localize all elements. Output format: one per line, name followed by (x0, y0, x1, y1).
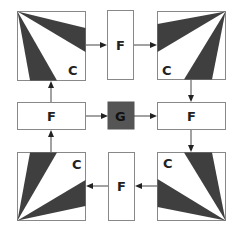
node-c-bottom-right: C (158, 153, 226, 221)
arrow-f-mid-left-to-c-top-left (48, 81, 54, 102)
node-f-mid-left: F (18, 103, 86, 130)
node-c-bottom-left: C (18, 153, 86, 221)
node-label: F (116, 38, 125, 53)
arrow-g-to-f-mid-right (134, 113, 157, 119)
cycle-diagram: C F C F G F C F C (0, 0, 234, 228)
node-label: C (68, 63, 78, 78)
arrow-f-mid-right-to-c-bottom-right (188, 130, 194, 152)
arrow-c-top-right-to-f-mid-right (188, 80, 194, 102)
node-label: C (163, 156, 173, 171)
arrow-f-bottom-to-c-bottom-left (86, 183, 108, 189)
arrow-c-bottom-left-to-f-mid-left (48, 130, 54, 152)
arrow-f-top-to-c-top-right (134, 42, 157, 48)
node-label: G (115, 109, 126, 124)
arrow-c-top-left-to-f-top (86, 42, 107, 48)
node-g-center: G (108, 102, 134, 129)
node-f-top: F (108, 11, 134, 80)
node-c-top-right: C (158, 12, 226, 80)
node-label: F (187, 109, 196, 124)
arrow-f-mid-left-to-g (86, 113, 108, 119)
node-c-top-left: C (18, 12, 86, 81)
node-label: C (72, 157, 82, 172)
node-f-mid-right: F (158, 103, 226, 130)
node-label: C (162, 63, 172, 78)
node-label: F (47, 109, 56, 124)
node-label: F (117, 179, 126, 194)
node-f-bottom: F (109, 153, 135, 221)
arrow-c-bottom-right-to-f-bottom (135, 183, 157, 189)
